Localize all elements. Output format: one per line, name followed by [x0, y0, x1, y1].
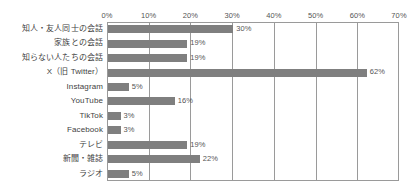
chart-row: Instagram5%	[0, 80, 413, 94]
category-label: 知人・友人同士の会話	[0, 22, 103, 36]
bar-value-label: 3%	[124, 123, 135, 137]
category-label: 新聞・雑誌	[0, 152, 103, 166]
chart-row: 新聞・雑誌22%	[0, 152, 413, 166]
bar-value-label: 5%	[132, 167, 143, 181]
category-label: TikTok	[0, 109, 103, 123]
bar	[108, 69, 367, 77]
bar-value-label: 19%	[190, 138, 205, 152]
bar-value-label: 5%	[132, 80, 143, 94]
chart-row: YouTube16%	[0, 94, 413, 108]
bar-value-label: 19%	[190, 36, 205, 50]
x-tick-label: 50%	[308, 10, 323, 21]
category-label: 家族との会話	[0, 36, 103, 50]
x-tick-label: 70%	[391, 10, 406, 21]
category-label: テレビ	[0, 138, 103, 152]
bar-value-label: 3%	[124, 109, 135, 123]
x-tick-label: 0%	[101, 10, 112, 21]
x-tick-label: 20%	[183, 10, 198, 21]
x-tick-label: 40%	[266, 10, 281, 21]
bar-value-label: 19%	[190, 51, 205, 65]
chart-row: 家族との会話19%	[0, 36, 413, 50]
bar-value-label: 22%	[203, 152, 218, 166]
bar	[108, 141, 187, 149]
chart-row: テレビ19%	[0, 138, 413, 152]
bar-value-label: 62%	[370, 65, 385, 79]
bar	[108, 126, 121, 134]
category-label: YouTube	[0, 94, 103, 108]
chart-row: Facebook3%	[0, 123, 413, 137]
chart-row: X（旧 Twitter）62%	[0, 65, 413, 79]
bar	[108, 54, 187, 62]
bar	[108, 112, 121, 120]
category-label: 知らない人たちの会話	[0, 51, 103, 65]
x-tick-label: 10%	[141, 10, 156, 21]
bar-value-label: 16%	[178, 94, 193, 108]
bar-value-label: 30%	[236, 22, 251, 36]
x-tick-label: 30%	[224, 10, 239, 21]
category-label: X（旧 Twitter）	[0, 65, 103, 79]
chart-row: 知らない人たちの会話19%	[0, 51, 413, 65]
bar	[108, 97, 175, 105]
chart-row: ラジオ5%	[0, 167, 413, 181]
bar	[108, 170, 129, 178]
category-label: Instagram	[0, 80, 103, 94]
category-label: ラジオ	[0, 167, 103, 181]
category-label: Facebook	[0, 123, 103, 137]
chart-rows: 知人・友人同士の会話30%家族との会話19%知らない人たちの会話19%X（旧 T…	[0, 22, 413, 181]
bar	[108, 83, 129, 91]
chart-row: 知人・友人同士の会話30%	[0, 22, 413, 36]
x-axis-tick-labels: 0%10%20%30%40%50%60%70%	[0, 10, 413, 22]
bar	[108, 155, 200, 163]
bar	[108, 25, 233, 33]
x-tick-label: 60%	[350, 10, 365, 21]
bar	[108, 40, 187, 48]
chart-row: TikTok3%	[0, 109, 413, 123]
bar-chart: 0%10%20%30%40%50%60%70% 知人・友人同士の会話30%家族と…	[0, 0, 413, 186]
